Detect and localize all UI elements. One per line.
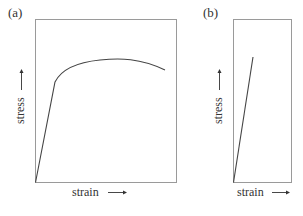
panel-a-xarrow-icon (108, 191, 127, 195)
panel-b-curve (234, 57, 254, 183)
panel-a-ylabel: stress (13, 97, 27, 124)
panel-a-xlabel: strain (72, 185, 99, 199)
panel-a-curve (36, 59, 166, 182)
panel-b-xlabel: strain (237, 185, 264, 199)
panel-a-label: (a) (8, 5, 22, 20)
panel-a: (a) stress strain (8, 5, 177, 199)
panel-b: (b) stress strain (203, 5, 292, 199)
panel-b-yarrow-icon (218, 69, 222, 90)
panel-b-label: (b) (203, 5, 218, 20)
panel-b-frame (234, 20, 292, 183)
panel-a-yarrow-icon (20, 69, 24, 90)
panel-a-frame (36, 20, 177, 183)
stress-strain-figure: (a) stress strain (b) stress strain (0, 0, 303, 216)
panel-b-ylabel: stress (211, 97, 225, 124)
panel-b-xarrow-icon (272, 191, 290, 195)
